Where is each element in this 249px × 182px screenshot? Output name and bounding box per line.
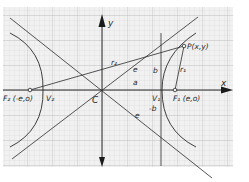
label-e-upper: e <box>133 65 138 74</box>
point-f1 <box>173 88 177 92</box>
hyperbola-diagram: y x C F₁ (e,o) F₂ (-e,o) V₁ V₂ P(x,y) r₁… <box>0 0 249 182</box>
label-e-lower: e <box>135 111 140 120</box>
point-p <box>182 44 186 48</box>
x-axis-label: x <box>220 78 227 88</box>
grid <box>3 7 233 167</box>
y-axis-label: y <box>107 18 114 28</box>
label-point-p: P(x,y) <box>187 42 209 51</box>
label-f1: F₁ (e,o) <box>173 94 200 103</box>
label-a: a <box>133 78 138 87</box>
label-f2: F₂ (-e,o) <box>3 94 33 103</box>
label-b-lower: -b <box>149 104 157 113</box>
label-r2: r₂ <box>111 58 117 67</box>
label-b-upper: b <box>153 66 158 75</box>
point-f2 <box>28 88 32 92</box>
label-r1: r₁ <box>180 65 186 74</box>
label-v1: V₁ <box>152 94 160 103</box>
label-v2: V₂ <box>46 94 54 103</box>
label-center: C <box>92 95 99 105</box>
